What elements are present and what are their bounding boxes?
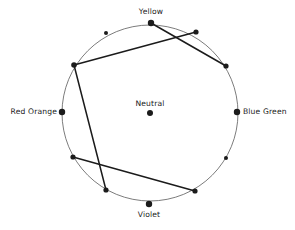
point-unlabeled-left-vertex: [71, 62, 77, 68]
point-violet: [146, 201, 152, 207]
point-unlabeled-upper-left: [104, 31, 108, 35]
label-neutral: Neutral: [135, 100, 164, 108]
point-unlabeled-bottom-left: [103, 187, 108, 192]
label-violet: Violet: [138, 211, 160, 219]
chord-yellow-to-right-lower: [151, 23, 226, 66]
chord-left-vertex-to-bottom-left: [74, 65, 106, 190]
label-yellow: Yellow: [139, 8, 163, 16]
point-yellow: [148, 20, 154, 26]
point-unlabeled-upper-right: [193, 29, 198, 34]
point-neutral: [147, 110, 153, 116]
point-unlabeled-right-upper: [223, 63, 228, 68]
point-red-orange: [59, 109, 65, 115]
point-unlabeled-right-lower: [224, 156, 228, 160]
chord-lower-left-to-bottom-right: [73, 157, 195, 191]
point-unlabeled-bottom-right: [192, 188, 197, 193]
point-unlabeled-lower-left: [70, 154, 75, 159]
point-blue-green: [234, 109, 240, 115]
label-red-orange: Red Orange: [11, 108, 57, 116]
chord-upper-right-to-left-vertex: [74, 32, 196, 65]
color-wheel-figure: Yellow Red Orange Blue Green Neutral Vio…: [0, 0, 295, 230]
label-blue-green: Blue Green: [243, 108, 287, 116]
